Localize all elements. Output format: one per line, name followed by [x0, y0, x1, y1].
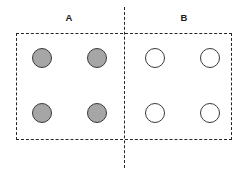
node-b-r2c2 [200, 103, 220, 123]
node-a-r2c1 [32, 103, 52, 123]
node-a-r1c1 [32, 48, 52, 68]
vertical-dashed-divider [124, 7, 125, 168]
group-label-a: A [59, 13, 79, 23]
node-b-r1c2 [200, 48, 220, 68]
group-label-b: B [174, 13, 194, 23]
node-a-r2c2 [87, 103, 107, 123]
node-a-r1c2 [87, 48, 107, 68]
node-b-r2c1 [145, 103, 165, 123]
two-group-node-diagram: A B [0, 0, 248, 173]
node-b-r1c1 [145, 48, 165, 68]
